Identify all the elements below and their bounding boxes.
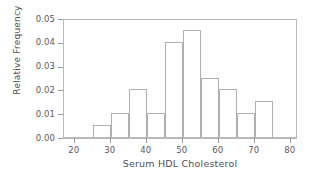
histogram-chart: Relative Frequency 0.000.010.020.030.040… <box>0 0 311 175</box>
histogram-bar <box>237 113 255 137</box>
histogram-bar <box>165 42 183 137</box>
x-axis-tick <box>290 138 291 143</box>
x-axis-tick <box>254 138 255 143</box>
x-axis-tick-label: 70 <box>242 145 266 155</box>
x-axis-tick-label: 50 <box>170 145 194 155</box>
x-axis-tick-label: 20 <box>62 145 86 155</box>
x-axis-tick-label: 80 <box>278 145 302 155</box>
x-axis-tick-label: 40 <box>134 145 158 155</box>
x-axis-tick <box>146 138 147 143</box>
plot-frame <box>63 19 297 138</box>
x-axis-tick-label: 60 <box>206 145 230 155</box>
x-axis-tick <box>110 138 111 143</box>
histogram-bar <box>255 101 273 137</box>
x-axis-tick <box>182 138 183 143</box>
x-axis-title: Serum HDL Cholesterol <box>63 158 297 169</box>
y-axis-tick-label: 0.03 <box>36 62 55 71</box>
y-axis-title: Relative Frequency <box>12 0 22 105</box>
y-axis-tick-label: 0.05 <box>36 15 55 24</box>
histogram-bar <box>201 78 219 138</box>
histogram-bar <box>111 113 129 137</box>
plot-area <box>64 20 296 137</box>
x-axis-line <box>63 138 297 139</box>
histogram-bar <box>219 89 237 137</box>
histogram-bar <box>183 30 201 137</box>
x-axis-tick-label: 30 <box>98 145 122 155</box>
histogram-bar <box>129 89 147 137</box>
y-axis-tick-label: 0.02 <box>36 86 55 95</box>
x-axis-tick <box>218 138 219 143</box>
y-axis-tick-label: 0.04 <box>36 38 55 47</box>
x-axis: Serum HDL Cholesterol 20304050607080 <box>0 138 311 175</box>
x-axis-tick <box>74 138 75 143</box>
histogram-bar <box>93 125 111 137</box>
histogram-bar <box>147 113 165 137</box>
y-axis-tick-label: 0.01 <box>36 110 55 119</box>
